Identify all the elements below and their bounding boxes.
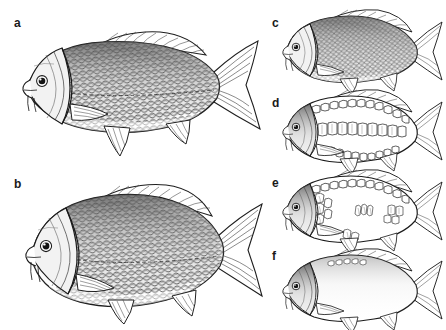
fish-body-group-f	[283, 249, 442, 330]
fish-body-group-c	[283, 10, 442, 94]
carp-varieties-figure: a b c d e f	[0, 0, 446, 330]
eye-d	[292, 123, 300, 131]
pelvic-fin-f	[340, 317, 358, 330]
panel-label-e: e	[272, 177, 279, 189]
head-c	[283, 24, 318, 76]
panel-label-a: a	[14, 17, 21, 29]
head-e	[283, 184, 318, 236]
fish-illustration-b	[0, 172, 272, 327]
eye-a	[37, 76, 48, 87]
barbel-upper-e	[286, 218, 287, 230]
panel-c-scaled-carp-small	[266, 6, 446, 88]
panel-d-mirror-carp-row-scaled	[266, 86, 446, 168]
pelvic-fin-a	[104, 126, 130, 156]
head-f	[283, 263, 318, 315]
panel-b-scaled-carp-deep-bodied	[0, 172, 272, 327]
barbel-upper-d	[286, 138, 287, 150]
panel-a-scaled-carp-elongate	[0, 10, 272, 165]
eye-f	[292, 282, 300, 290]
anal-fin-a	[166, 120, 190, 144]
fish-illustration-f	[266, 243, 446, 328]
panel-e-line-carp-sparse-scaled	[266, 166, 446, 248]
barbel-upper-a	[28, 95, 29, 111]
fish-illustration-a	[0, 10, 272, 165]
pelvic-fin-b	[108, 300, 134, 324]
barbel-upper-c	[286, 58, 287, 70]
fish-illustration-c	[266, 6, 446, 88]
fish-body-group-e	[283, 170, 442, 254]
barbel-upper-f	[286, 297, 287, 309]
head-b	[26, 208, 79, 294]
head-d	[283, 104, 318, 156]
caudal-fin-a	[214, 41, 260, 129]
fish-illustration-d	[266, 86, 446, 168]
eye-c	[292, 43, 300, 51]
fish-body-group-a	[23, 32, 260, 156]
panel-label-f: f	[272, 250, 276, 262]
panel-label-b: b	[14, 178, 21, 190]
caudal-fin-b	[218, 204, 262, 296]
panel-f-leather-carp-naked	[266, 243, 446, 328]
isolated-scale-cluster-e	[355, 204, 373, 216]
fish-illustration-e	[266, 166, 446, 248]
panel-label-c: c	[272, 17, 279, 29]
head-a	[23, 48, 72, 124]
fish-body-group-b	[26, 185, 262, 324]
panel-label-d: d	[272, 97, 279, 109]
fish-body-group-d	[283, 90, 442, 174]
eye-b	[40, 240, 51, 251]
eye-e	[292, 203, 300, 211]
